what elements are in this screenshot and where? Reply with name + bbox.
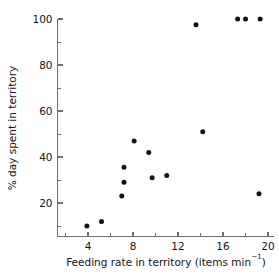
data-point (257, 191, 262, 196)
axes-group (57, 19, 274, 237)
data-point (164, 173, 169, 178)
data-point (150, 175, 155, 180)
data-point (119, 194, 124, 199)
data-point (194, 22, 199, 27)
plot-canvas: 20406080100 48121620 Feeding rate in ter… (0, 0, 279, 274)
data-point (122, 180, 127, 185)
y-tick-label: 40 (39, 151, 52, 163)
data-point (235, 17, 240, 22)
data-point-series (84, 17, 262, 229)
y-axis-tick-labels: 20406080100 (32, 13, 52, 209)
x-tick-label: 12 (171, 240, 184, 252)
data-point (200, 129, 205, 134)
x-axis-title: Feeding rate in territory (items min−1) (66, 251, 266, 268)
x-tick-label: 4 (85, 240, 92, 252)
data-point (146, 150, 151, 155)
y-axis-title: % day spent in territory (6, 66, 18, 191)
x-axis-tick-labels: 48121620 (85, 240, 275, 252)
scatter-plot-figure: 20406080100 48121620 Feeding rate in ter… (0, 0, 279, 274)
x-axis-ticks (88, 232, 268, 237)
y-axis-ticks (58, 19, 63, 203)
y-tick-label: 100 (32, 13, 52, 25)
data-point (243, 17, 248, 22)
data-point (122, 165, 127, 170)
data-point (132, 138, 137, 143)
y-tick-label: 60 (39, 105, 52, 117)
data-point (99, 219, 104, 224)
data-point (84, 224, 89, 229)
data-point (258, 17, 263, 22)
y-tick-label: 20 (39, 197, 52, 209)
y-tick-label: 80 (39, 59, 52, 71)
x-tick-label: 8 (130, 240, 137, 252)
x-tick-label: 20 (261, 240, 274, 252)
x-tick-label: 16 (216, 240, 230, 252)
